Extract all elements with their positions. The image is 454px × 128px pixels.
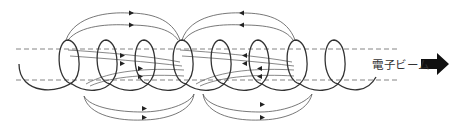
bottom-right-field-loops (203, 94, 312, 120)
bottom-left-field-loops (84, 94, 194, 120)
top-left-field-loops (66, 13, 180, 40)
beam-boundary-lines (16, 49, 398, 80)
electron-beam-label: 電子ビーム (372, 56, 430, 72)
top-right-field-loops (182, 13, 295, 40)
